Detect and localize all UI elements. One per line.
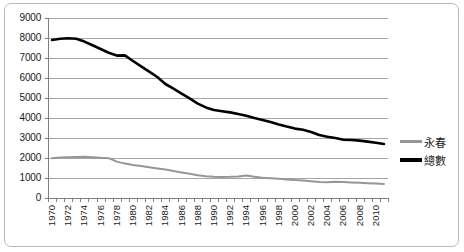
x-tick-label: 1996: [258, 205, 268, 226]
x-tick-label: 2004: [322, 205, 332, 226]
series-lines-group: [52, 38, 384, 184]
y-tick-label: 9000: [5, 13, 41, 23]
legend-label-1: 永春: [424, 134, 446, 150]
y-tick-label: 3000: [5, 133, 41, 143]
x-tick-label: 1990: [209, 205, 219, 226]
x-tick-label: 1982: [144, 205, 154, 226]
x-tick-label: 1972: [63, 205, 73, 226]
x-tick-label: 1992: [225, 205, 235, 226]
chart-container: 9000800070006000500040003000200010000 19…: [0, 0, 464, 252]
x-tick-label: 1998: [274, 205, 284, 226]
series-line-1: [52, 157, 384, 184]
x-tick-label: 2010: [371, 205, 381, 226]
x-tick-label: 1994: [241, 205, 251, 226]
series-line-2: [52, 38, 384, 144]
x-tick-label: 2002: [306, 205, 316, 226]
x-tick-label: 2006: [338, 205, 348, 226]
y-tick-label: 6000: [5, 73, 41, 83]
y-tick-label: 4000: [5, 113, 41, 123]
legend-swatch-1: [400, 140, 422, 143]
y-tick-label: 8000: [5, 33, 41, 43]
legend-swatch-2: [400, 158, 422, 162]
gridlines-group: [45, 19, 388, 199]
y-tick-label: 7000: [5, 53, 41, 63]
legend-label-2: 總數: [424, 152, 446, 168]
x-tick-label: 1980: [128, 205, 138, 226]
y-tick-label: 5000: [5, 93, 41, 103]
x-tick-label: 1978: [112, 205, 122, 226]
axes-group: [48, 18, 388, 199]
x-tick-label: 2000: [290, 205, 300, 226]
x-tick-label: 2008: [355, 205, 365, 226]
y-tick-label: 0: [5, 193, 41, 203]
y-tick-label: 2000: [5, 153, 41, 163]
x-tick-label: 1976: [96, 205, 106, 226]
x-tick-label: 1984: [160, 205, 170, 226]
y-tick-label: 1000: [5, 173, 41, 183]
x-tick-label: 1974: [79, 205, 89, 226]
x-tick-label: 1988: [193, 205, 203, 226]
x-tick-label: 1970: [47, 205, 57, 226]
x-tick-label: 1986: [177, 205, 187, 226]
